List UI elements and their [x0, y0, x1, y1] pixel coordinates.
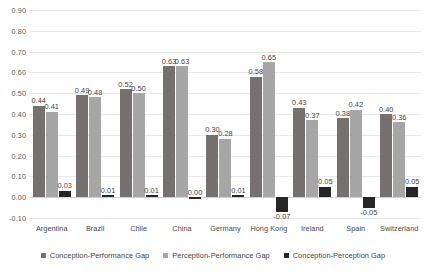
chart-legend: Conception-Performance GapPerception-Per… [0, 251, 426, 260]
bar-slot: 0.52 [120, 10, 132, 218]
bar[interactable] [263, 62, 275, 197]
bar[interactable] [363, 197, 375, 207]
bar-value-label: 0.37 [305, 111, 320, 120]
x-axis-category-labels: ArgentinaBrazilChileChinaGermanyHong Kon… [30, 224, 421, 238]
bar-group: 0.440.410.03 [30, 10, 73, 218]
bar[interactable] [293, 108, 305, 197]
bar[interactable] [33, 106, 45, 198]
bar-group: 0.300.280.01 [204, 10, 247, 218]
bar-value-label: 0.41 [44, 102, 59, 111]
bar[interactable] [350, 110, 362, 197]
bar[interactable] [406, 187, 418, 197]
bar-value-label: 0.43 [292, 98, 307, 107]
bar[interactable] [393, 122, 405, 197]
bar-slot: 0.44 [33, 10, 45, 218]
legend-swatch-icon [284, 253, 289, 258]
gridline [30, 218, 421, 219]
bar-slot: 0.41 [46, 10, 58, 218]
y-axis-tick-label: 0.90 [0, 6, 26, 15]
bar-slot: 0.03 [59, 10, 71, 218]
bar-value-label: 0.28 [218, 129, 233, 138]
y-axis-tick-label: 0.60 [0, 68, 26, 77]
bar-value-label: 0.05 [318, 177, 333, 186]
bar-value-label: 0.36 [392, 113, 407, 122]
bar[interactable] [380, 114, 392, 197]
bar-value-label: 0.58 [249, 67, 264, 76]
bar-slot: 0.01 [232, 10, 244, 218]
bar-value-label: 0.38 [335, 109, 350, 118]
bar-group-bars: 0.400.360.05 [378, 10, 421, 218]
y-axis-tick-label: 0.70 [0, 48, 26, 57]
x-axis-label: Chile [117, 224, 160, 238]
bar-slot: 0.58 [250, 10, 262, 218]
bar-value-label: 0.01 [144, 186, 159, 195]
bar-group: 0.400.360.05 [378, 10, 421, 218]
bar[interactable] [206, 135, 218, 197]
bar[interactable] [120, 89, 132, 197]
legend-label: Conception-Perception Gap [293, 251, 385, 260]
x-axis-label: Ireland [291, 224, 334, 238]
bar-group-bars: 0.490.480.01 [73, 10, 116, 218]
y-axis-tick-label: -0.10 [0, 214, 26, 223]
bar[interactable] [250, 77, 262, 198]
bar-value-label: 0.03 [57, 181, 72, 190]
bar[interactable] [59, 191, 71, 197]
bar[interactable] [276, 197, 288, 212]
bar-slot: 0.38 [337, 10, 349, 218]
bar-slot: 0.37 [306, 10, 318, 218]
bar-slot: 0.48 [89, 10, 101, 218]
bar-slot: 0.63 [163, 10, 175, 218]
bar-slot: 0.30 [206, 10, 218, 218]
legend-item[interactable]: Conception-Perception Gap [284, 251, 385, 260]
bar-group: 0.580.65-0.07 [247, 10, 290, 218]
bar[interactable] [319, 187, 331, 197]
x-axis-label: Spain [334, 224, 377, 238]
bar-group: 0.380.42-0.05 [334, 10, 377, 218]
bar-slot: 0.49 [76, 10, 88, 218]
bar[interactable] [102, 195, 114, 197]
bar-group-bars: 0.440.410.03 [30, 10, 73, 218]
bar[interactable] [306, 120, 318, 197]
bar[interactable] [189, 197, 201, 199]
bar[interactable] [133, 93, 145, 197]
bar-groups: 0.440.410.030.490.480.010.520.500.010.63… [30, 10, 421, 218]
bar-value-label: 0.42 [348, 100, 363, 109]
bar-slot: 0.01 [146, 10, 158, 218]
bar-value-label: 0.00 [188, 188, 203, 197]
bar-group: 0.430.370.05 [291, 10, 334, 218]
legend-label: Conception-Performance Gap [50, 251, 149, 260]
bar[interactable] [232, 195, 244, 197]
bar-group-bars: 0.380.42-0.05 [334, 10, 377, 218]
legend-swatch-icon [41, 253, 46, 258]
bar-value-label: 0.01 [101, 186, 116, 195]
x-axis-label: Argentina [30, 224, 73, 238]
bar[interactable] [146, 195, 158, 197]
y-axis-tick-label: 0.80 [0, 27, 26, 36]
bar-slot: -0.05 [363, 10, 375, 218]
bar-slot: -0.07 [276, 10, 288, 218]
bar[interactable] [163, 66, 175, 197]
bar[interactable] [219, 139, 231, 197]
bar-slot: 0.36 [393, 10, 405, 218]
bar-value-label: 0.48 [88, 88, 103, 97]
bar[interactable] [46, 112, 58, 197]
bar-value-label: 0.63 [175, 57, 190, 66]
bar-value-label: -0.05 [360, 208, 377, 217]
bar[interactable] [337, 118, 349, 197]
bar-group-bars: 0.300.280.01 [204, 10, 247, 218]
bar-value-label: 0.65 [262, 53, 277, 62]
x-axis-label: Switzerland [378, 224, 421, 238]
bar[interactable] [76, 95, 88, 197]
bar-slot: 0.63 [176, 10, 188, 218]
bar-group-bars: 0.630.630.00 [160, 10, 203, 218]
y-axis-tick-label: 0.40 [0, 110, 26, 119]
bar-group-bars: 0.580.65-0.07 [247, 10, 290, 218]
legend-item[interactable]: Conception-Performance Gap [41, 251, 149, 260]
bar[interactable] [176, 66, 188, 197]
bar-value-label: 0.05 [405, 177, 420, 186]
bar[interactable] [89, 97, 101, 197]
bar-group-bars: 0.430.370.05 [291, 10, 334, 218]
legend-item[interactable]: Perception-Performance Gap [163, 251, 269, 260]
legend-swatch-icon [163, 253, 168, 258]
bar-slot: 0.50 [133, 10, 145, 218]
